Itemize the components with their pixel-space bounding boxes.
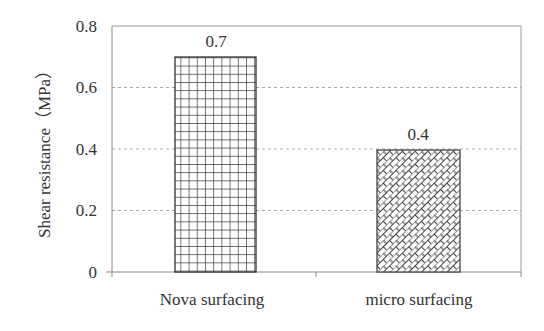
x-label-nova: Nova surfacing	[160, 290, 265, 309]
svg-text:0: 0	[89, 263, 98, 282]
bar-micro-surfacing	[377, 150, 460, 272]
data-label-micro: 0.4	[407, 125, 429, 144]
svg-text:0.6: 0.6	[76, 78, 97, 97]
data-label-nova: 0.7	[205, 32, 227, 51]
bar-nova-surfacing	[175, 57, 256, 272]
svg-text:0.4: 0.4	[76, 140, 98, 159]
y-axis-title: Shear resistance（MPa）	[35, 62, 54, 238]
y-tick-labels: 0 0.2 0.4 0.6 0.8	[76, 17, 98, 282]
svg-text:0.8: 0.8	[76, 17, 97, 36]
x-label-micro: micro surfacing	[365, 290, 473, 309]
bar-chart: 0 0.2 0.4 0.6 0.8 0.7 0.4 Nova surfacing…	[0, 0, 544, 331]
svg-text:0.2: 0.2	[76, 201, 97, 220]
